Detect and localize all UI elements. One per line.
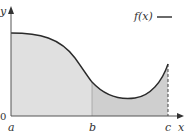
y-axis-label: y xyxy=(0,5,7,18)
y-axis-arrow-icon xyxy=(8,6,14,14)
point-c-label: c xyxy=(165,121,171,134)
origin-label: 0 xyxy=(0,111,6,122)
region-b-to-c xyxy=(92,64,168,116)
x-axis-label: x xyxy=(178,121,185,134)
point-a-label: a xyxy=(8,121,15,134)
legend-label: f(x) xyxy=(133,10,153,23)
point-b-label: b xyxy=(89,121,96,134)
region-a-to-b xyxy=(11,33,92,116)
x-axis-arrow-icon xyxy=(177,113,184,119)
area-under-curve-diagram: y x 0 f(x) a b c xyxy=(0,0,195,138)
